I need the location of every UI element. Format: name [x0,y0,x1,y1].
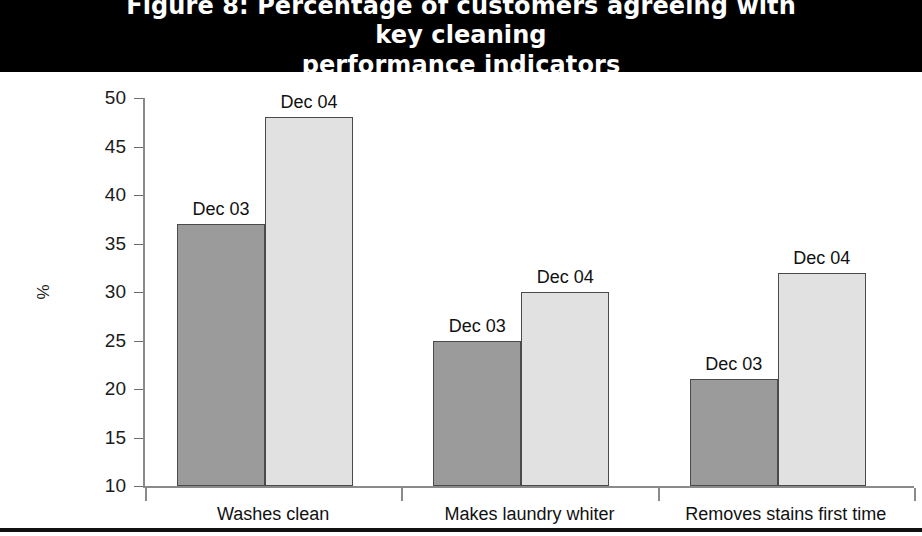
category-label: Washes clean [217,504,329,525]
bar-label: Dec 03 [449,316,506,337]
bar-label: Dec 03 [192,199,249,220]
bottom-rule [0,528,922,532]
category-end-tick [914,488,916,501]
category-end-tick [145,488,147,501]
bar-dec-03-2 [433,341,521,487]
figure-title-banner: Figure 8: Percentage of customers agreei… [0,0,922,72]
bar-dec-03-1 [177,224,265,486]
bar-label: Dec 03 [705,354,762,375]
category-separator-tick [658,488,660,501]
bars-layer: Dec 03Dec 04Dec 03Dec 04Dec 03Dec 04 [0,72,922,536]
bar-label: Dec 04 [280,92,337,113]
bar-dec-04-2 [521,292,609,486]
figure-title: Figure 8: Percentage of customers agreei… [111,0,811,80]
figure-container: Figure 8: Percentage of customers agreei… [0,0,922,536]
bar-dec-04-3 [778,273,866,486]
category-label: Makes laundry whiter [444,504,614,525]
bar-dec-04-1 [265,117,353,486]
plot-area: % 50 45 40 35 30 25 20 15 10 Dec 03Dec 0… [0,72,922,536]
bar-label: Dec 04 [793,248,850,269]
figure-title-line-1: Figure 8: Percentage of customers agreei… [126,0,796,49]
bar-label: Dec 04 [537,267,594,288]
bar-dec-03-3 [690,379,778,486]
category-separator-tick [401,488,403,501]
category-label: Removes stains first time [685,504,886,525]
